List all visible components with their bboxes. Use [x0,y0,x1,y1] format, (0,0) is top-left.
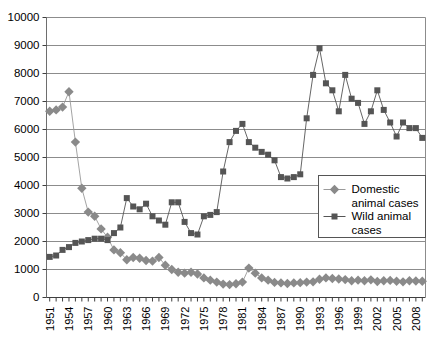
data-point-marker [85,237,91,243]
legend-label-line2: animal cases [352,197,419,209]
y-axis-tick-labels: 0100020003000400050006000700080009000100… [8,11,47,303]
data-point-marker [259,149,265,155]
data-point-marker [98,236,104,242]
data-point-marker [366,275,375,284]
data-point-marker [387,120,393,126]
data-point-marker [381,107,387,113]
data-point-marker [323,80,329,86]
y-axis-tick-label: 2000 [14,235,40,247]
data-point-marker [96,224,105,233]
data-point-marker [143,201,149,207]
data-point-marker [284,176,290,182]
data-point-marker [117,225,123,231]
x-axis-tick-label: 1987 [275,307,287,331]
data-point-marker [64,87,73,96]
data-point-marker [214,209,220,215]
data-point-marker [419,135,425,141]
data-point-marker [188,230,194,236]
y-axis-tick-label: 7000 [14,95,40,107]
data-point-marker [246,139,252,145]
data-point-marker [156,218,162,224]
data-point-marker [105,237,111,243]
data-point-marker [149,213,155,219]
x-axis-tick-label: 1951 [44,307,56,331]
data-point-marker [71,137,80,146]
x-axis-tick-label: 2005 [391,307,403,331]
data-point-marker [182,219,188,225]
data-point-marker [207,212,213,218]
data-point-marker [92,236,98,242]
data-point-marker [374,87,380,93]
x-axis-tick-labels: 1951195419571960196319661969197219751978… [44,298,423,331]
data-point-marker [336,108,342,114]
data-point-marker [297,171,303,177]
data-series-layer [45,45,427,289]
data-point-marker [329,87,335,93]
x-axis-tick-label: 2008 [410,307,422,331]
x-axis-tick-label: 1996 [333,307,345,331]
data-point-marker [406,125,412,131]
chart-container: 0100020003000400050006000700080009000100… [0,0,436,345]
data-point-marker [53,253,59,259]
data-point-marker [252,145,258,151]
data-point-marker [361,121,367,127]
data-point-marker [60,247,66,253]
x-axis-tick-label: 1990 [294,307,306,331]
data-point-marker [47,254,53,260]
x-axis-tick-label: 1954 [63,307,75,331]
data-point-marker [72,240,78,246]
x-axis-tick-label: 1957 [82,307,94,331]
y-axis-tick-label: 5000 [14,151,40,163]
data-point-marker [194,232,200,238]
data-point-marker [342,72,348,78]
data-point-marker [368,108,374,114]
x-axis-tick-label: 1969 [159,307,171,331]
rabies-cases-line-chart: 0100020003000400050006000700080009000100… [0,0,436,345]
x-axis-tick-label: 2002 [371,307,383,331]
x-axis-tick-label: 1981 [236,307,248,331]
data-point-marker [231,279,240,288]
data-point-marker [220,169,226,175]
data-point-marker [124,195,130,201]
y-axis-tick-label: 4000 [14,179,40,191]
data-point-marker [349,96,355,102]
data-point-marker [304,115,310,121]
data-point-marker [278,174,284,180]
x-axis-tick-label: 1993 [314,307,326,331]
data-point-marker [394,134,400,140]
chart-legend: Domesticanimal casesWild animalcases [319,176,426,238]
x-axis-tick-label: 1975 [198,307,210,331]
data-point-marker [201,213,207,219]
x-axis-tick-label: 1978 [217,307,229,331]
data-point-marker [265,152,271,158]
data-point-marker [355,100,361,106]
y-axis-tick-label: 8000 [14,67,40,79]
y-axis-tick-label: 1000 [14,263,40,275]
x-axis-tick-label: 1972 [179,307,191,331]
data-point-marker [238,277,247,286]
data-point-marker [244,263,253,272]
data-point-marker [233,128,239,134]
data-point-marker [169,199,175,205]
legend-label-line1: Wild animal [352,210,411,222]
x-axis-tick-label: 1984 [256,307,268,331]
x-axis-tick-label: 1963 [121,307,133,331]
x-axis-tick-label: 1966 [140,307,152,331]
data-point-marker [66,244,72,250]
y-axis-tick-label: 10000 [8,11,40,23]
data-point-marker [227,139,233,145]
data-point-marker [175,199,181,205]
data-point-marker [332,214,338,220]
data-point-marker [413,125,419,131]
data-point-marker [79,239,85,245]
data-point-marker [111,230,117,236]
data-point-marker [317,45,323,51]
data-point-marker [137,206,143,212]
legend-label-line1: Domestic [352,183,400,195]
y-axis-tick-label: 3000 [14,207,40,219]
data-point-marker [291,174,297,180]
data-point-marker [162,222,168,228]
data-point-marker [130,204,136,210]
x-axis-tick-label: 1960 [102,307,114,331]
y-axis-tick-label: 9000 [14,39,40,51]
